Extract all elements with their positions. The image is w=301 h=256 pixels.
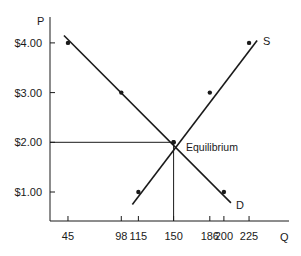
- data-point: [247, 41, 251, 45]
- data-point: [171, 140, 175, 144]
- data-point: [208, 90, 212, 94]
- data-point: [136, 190, 140, 194]
- supply-label: S: [263, 35, 270, 47]
- data-point: [66, 41, 70, 45]
- x-ticks: 4598115150186200225: [62, 216, 258, 242]
- x-tick-label: 115: [130, 230, 148, 242]
- supply-demand-chart: $1.00$2.00$3.00$4.00 4598115150186200225…: [0, 0, 301, 256]
- x-tick-label: 225: [240, 230, 258, 242]
- equilibrium-label: Equilibrium: [186, 141, 238, 153]
- x-tick-label: 200: [215, 230, 233, 242]
- data-point: [222, 190, 226, 194]
- y-tick-label: $1.00: [14, 186, 42, 198]
- q-axis-label: Q: [280, 231, 289, 243]
- y-tick-label: $4.00: [14, 37, 42, 49]
- data-point: [119, 90, 123, 94]
- y-tick-label: $2.00: [14, 136, 42, 148]
- curves: [64, 35, 257, 204]
- x-tick-label: 98: [115, 230, 127, 242]
- y-tick-label: $3.00: [14, 87, 42, 99]
- equilibrium-guides: [50, 142, 174, 221]
- p-axis-label: P: [37, 15, 44, 27]
- demand-label: D: [236, 199, 244, 211]
- y-ticks: $1.00$2.00$3.00$4.00: [14, 37, 55, 198]
- x-tick-label: 45: [62, 230, 74, 242]
- axes: [50, 17, 289, 221]
- demand-curve: [64, 35, 231, 202]
- x-tick-label: 150: [164, 230, 182, 242]
